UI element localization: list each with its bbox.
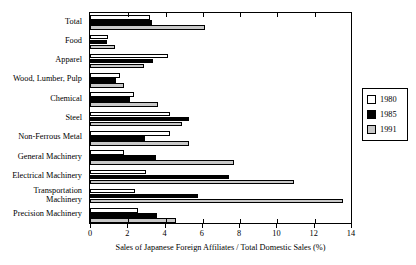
bar-1991-total bbox=[90, 25, 205, 30]
legend-item-1991: 1991 bbox=[367, 123, 404, 136]
x-axis-inner-tick-bottom bbox=[240, 219, 241, 223]
legend-label-1991: 1991 bbox=[380, 125, 397, 134]
bar-1985-apparel bbox=[90, 59, 153, 64]
x-axis-inner-tick-bottom bbox=[277, 219, 278, 223]
bar-1991-transportation-machinery bbox=[90, 199, 343, 204]
legend-swatch-1991 bbox=[367, 125, 376, 134]
x-axis-inner-tick-bottom bbox=[128, 219, 129, 223]
y-axis-label-apparel: Apparel bbox=[0, 55, 86, 65]
x-axis-tick-label-2: 2 bbox=[115, 229, 139, 238]
y-axis-tick bbox=[90, 61, 94, 62]
bar-1980-transportation-machinery bbox=[90, 189, 135, 194]
bar-1980-wood-lumber-pulp bbox=[90, 73, 120, 78]
x-axis-inner-tick-top bbox=[166, 13, 167, 17]
bar-1980-general-machinery bbox=[90, 150, 124, 155]
bar-1985-steel bbox=[90, 117, 189, 122]
bar-1980-non-ferrous-metal bbox=[90, 131, 170, 136]
bar-1980-electrical-machinery bbox=[90, 170, 146, 175]
y-axis-label-total: Total bbox=[0, 17, 86, 27]
legend-swatch-1985 bbox=[367, 110, 376, 119]
bar-1991-non-ferrous-metal bbox=[90, 141, 189, 146]
y-axis-tick bbox=[90, 42, 94, 43]
x-axis-tick-label-10: 10 bbox=[264, 229, 288, 238]
bar-1991-electrical-machinery bbox=[90, 180, 294, 185]
y-axis-label-wood-lumber-pulp: Wood, Lumber, Pulp bbox=[0, 74, 86, 84]
y-axis-label-precision-machinery: Precision Machinery bbox=[0, 209, 86, 219]
x-axis-ticks: 02468101214 bbox=[89, 224, 352, 229]
bar-1980-precision-machinery bbox=[90, 208, 138, 213]
y-axis-label-chemical: Chemical bbox=[0, 94, 86, 104]
y-axis-tick bbox=[90, 177, 94, 178]
x-axis-tick-label-14: 14 bbox=[339, 229, 363, 238]
x-axis-inner-tick-top bbox=[315, 13, 316, 17]
bar-1991-chemical bbox=[90, 102, 158, 107]
bar-1991-general-machinery bbox=[90, 160, 234, 165]
bar-1985-non-ferrous-metal bbox=[90, 136, 145, 141]
x-axis-tick-2 bbox=[127, 224, 128, 228]
y-axis-label-electrical-machinery: Electrical Machinery bbox=[0, 171, 86, 181]
y-axis-tick bbox=[90, 196, 94, 197]
legend-label-1985: 1985 bbox=[380, 110, 397, 119]
bar-1980-total bbox=[90, 15, 150, 20]
legend-label-1980: 1980 bbox=[380, 95, 397, 104]
bar-1991-steel bbox=[90, 122, 182, 127]
bar-1985-total bbox=[90, 20, 152, 25]
bar-1985-precision-machinery bbox=[90, 213, 157, 218]
x-axis-tick-0 bbox=[90, 224, 91, 228]
x-axis-tick-8 bbox=[239, 224, 240, 228]
legend-item-1985: 1985 bbox=[367, 108, 404, 121]
x-axis-tick-14 bbox=[351, 224, 352, 228]
x-axis-tick-label-8: 8 bbox=[227, 229, 251, 238]
y-axis-tick bbox=[90, 80, 94, 81]
y-axis-tick bbox=[90, 138, 94, 139]
legend-swatch-1980 bbox=[367, 95, 376, 104]
x-axis-tick-label-12: 12 bbox=[302, 229, 326, 238]
y-axis-label-transportation-machinery: Transportation Machinery bbox=[0, 186, 86, 205]
plot-area bbox=[89, 12, 352, 224]
bar-1980-chemical bbox=[90, 92, 134, 97]
y-axis-label-food: Food bbox=[0, 36, 86, 46]
x-axis-tick-4 bbox=[165, 224, 166, 228]
x-axis-inner-tick-top bbox=[203, 13, 204, 17]
chart-legend: 1980 1985 1991 bbox=[362, 88, 408, 141]
y-axis-tick bbox=[90, 100, 94, 101]
x-axis-title: Sales of Japanese Foreign Affiliates / T… bbox=[89, 243, 352, 252]
y-axis-category-labels: TotalFoodApparelWood, Lumber, PulpChemic… bbox=[0, 12, 86, 224]
x-axis-inner-tick-top bbox=[277, 13, 278, 17]
legend-item-1980: 1980 bbox=[367, 93, 404, 106]
x-axis-inner-tick-bottom bbox=[315, 219, 316, 223]
y-axis-label-steel: Steel bbox=[0, 113, 86, 123]
bar-1985-electrical-machinery bbox=[90, 175, 229, 180]
bar-1991-precision-machinery bbox=[90, 218, 176, 223]
x-axis-tick-label-0: 0 bbox=[78, 229, 102, 238]
bar-1991-wood-lumber-pulp bbox=[90, 83, 124, 88]
x-axis-inner-tick-bottom bbox=[166, 219, 167, 223]
x-axis-inner-tick-top bbox=[128, 13, 129, 17]
bar-1980-steel bbox=[90, 112, 170, 117]
bar-1980-food bbox=[90, 35, 108, 40]
x-axis-inner-tick-bottom bbox=[203, 219, 204, 223]
x-axis-inner-tick-top bbox=[240, 13, 241, 17]
x-axis-tick-label-6: 6 bbox=[190, 229, 214, 238]
y-axis-label-general-machinery: General Machinery bbox=[0, 152, 86, 162]
x-axis-tick-6 bbox=[202, 224, 203, 228]
y-axis-label-non-ferrous-metal: Non-Ferrous Metal bbox=[0, 132, 86, 142]
bar-1985-general-machinery bbox=[90, 155, 156, 160]
y-axis-tick bbox=[90, 119, 94, 120]
y-axis-tick bbox=[90, 23, 94, 24]
y-axis-tick bbox=[90, 158, 94, 159]
x-axis-tick-10 bbox=[276, 224, 277, 228]
bar-chart: TotalFoodApparelWood, Lumber, PulpChemic… bbox=[0, 0, 416, 265]
bar-1991-apparel bbox=[90, 64, 144, 69]
bar-1980-apparel bbox=[90, 54, 168, 59]
bar-1985-transportation-machinery bbox=[90, 194, 198, 199]
y-axis-tick bbox=[90, 215, 94, 216]
x-axis-tick-label-4: 4 bbox=[153, 229, 177, 238]
bar-1991-food bbox=[90, 45, 115, 50]
x-axis-tick-12 bbox=[314, 224, 315, 228]
bar-1985-chemical bbox=[90, 97, 130, 102]
